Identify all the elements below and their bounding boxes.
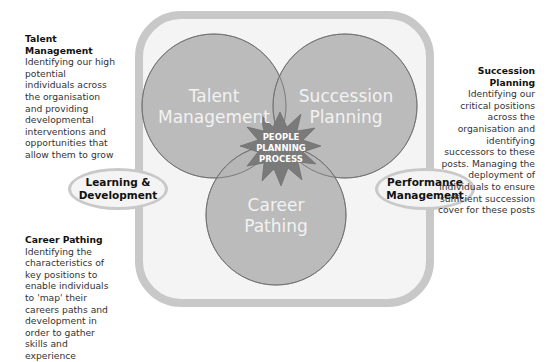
oval-learning-development: Learning & Development bbox=[68, 168, 168, 210]
description-body: Identifying our high potential individua… bbox=[25, 56, 117, 160]
circle-label-line: Planning bbox=[276, 107, 416, 128]
description-succession-planning: Succession Planning Identifying our crit… bbox=[435, 65, 535, 216]
circle-label-line: Career bbox=[206, 195, 346, 216]
center-label-line: PEOPLE bbox=[236, 132, 326, 143]
circle-label-talent: Talent Management bbox=[144, 86, 284, 128]
description-title: Career Pathing bbox=[25, 234, 117, 246]
description-career-pathing: Career Pathing Identifying the character… bbox=[25, 234, 117, 362]
description-title: Succession Planning bbox=[435, 65, 535, 88]
circle-label-succession: Succession Planning bbox=[276, 86, 416, 128]
description-talent-management: Talent Management Identifying our high p… bbox=[25, 33, 117, 161]
circle-label-line: Succession bbox=[276, 86, 416, 107]
circle-label-career: Career Pathing bbox=[206, 195, 346, 237]
center-label-line: PROCESS bbox=[236, 154, 326, 165]
description-body: Identifying the characteristics of key p… bbox=[25, 246, 117, 362]
circle-label-line: Management bbox=[144, 107, 284, 128]
circle-label-line: Talent bbox=[144, 86, 284, 107]
oval-line: Development bbox=[79, 189, 158, 202]
circle-label-line: Pathing bbox=[206, 216, 346, 237]
oval-line: Learning & bbox=[79, 176, 158, 189]
center-label: PEOPLE PLANNING PROCESS bbox=[236, 132, 326, 165]
center-label-line: PLANNING bbox=[236, 143, 326, 154]
description-title: Talent Management bbox=[25, 33, 117, 56]
description-body: Identifying our critical positions acros… bbox=[435, 88, 535, 216]
